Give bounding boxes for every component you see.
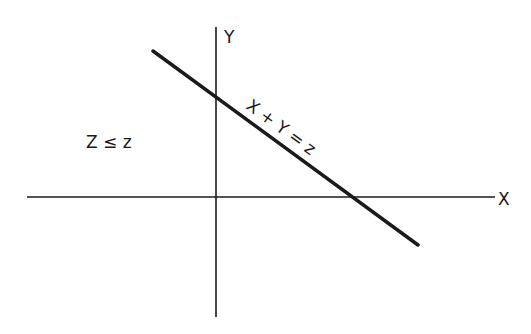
diagram-canvas: Y X Z ≤ z X + Y = z <box>0 0 531 334</box>
background <box>0 0 531 334</box>
x-axis-label: X <box>498 189 510 209</box>
region-label: Z ≤ z <box>86 132 132 152</box>
y-axis-label: Y <box>223 27 235 47</box>
